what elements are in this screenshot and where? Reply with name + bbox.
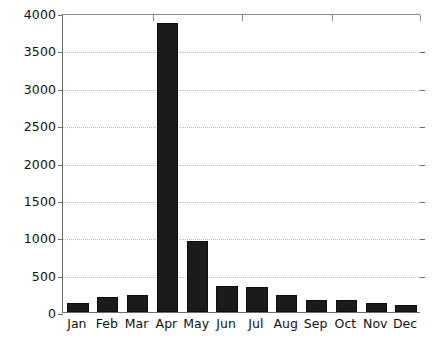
x-axis-tick-label: Mar	[125, 316, 149, 331]
y-tick-mark-right	[420, 239, 425, 240]
y-axis-tick-label: 1000	[0, 231, 56, 246]
x-axis-tick-label: Feb	[96, 316, 118, 331]
y-axis-tick-label: 500	[0, 268, 56, 283]
bar-dec	[395, 305, 416, 312]
y-tick-mark-right	[420, 277, 425, 278]
x-axis-tick-label: Jun	[216, 316, 236, 331]
bar-oct	[336, 300, 357, 312]
x-axis-tick-label: Sep	[304, 316, 328, 331]
x-axis-tick-label: Oct	[335, 316, 357, 331]
x-axis-tick-label: Jul	[248, 316, 263, 331]
x-axis-tick-label: Dec	[393, 316, 417, 331]
bar-sep	[306, 300, 327, 312]
y-tick-mark-right	[420, 165, 425, 166]
y-axis-tick-label: 2000	[0, 156, 56, 171]
plot-area	[62, 14, 420, 313]
x-axis-tick-label: Aug	[274, 316, 298, 331]
x-axis-tick-label: Nov	[363, 316, 387, 331]
y-tick-mark-right	[420, 202, 425, 203]
bar-jan	[67, 303, 88, 312]
bar-jul	[246, 287, 267, 312]
y-tick-mark-right	[420, 90, 425, 91]
bar-apr	[157, 23, 178, 312]
bar-feb	[97, 297, 118, 312]
bar-series	[63, 15, 420, 312]
bar-jun	[216, 286, 237, 312]
y-axis-labels: 05001000150020002500300035004000	[0, 14, 56, 313]
y-axis-tick-label: 1500	[0, 193, 56, 208]
y-tick-mark-right	[420, 52, 425, 53]
x-axis-tick-label: Apr	[156, 316, 178, 331]
x-axis-tick-label: Jan	[67, 316, 86, 331]
x-top-tick-mark	[420, 15, 421, 21]
bar-mar	[127, 295, 148, 312]
x-axis-tick-label: May	[183, 316, 209, 331]
y-axis-tick-label: 0	[0, 306, 56, 321]
y-axis-tick-label: 2500	[0, 119, 56, 134]
bar-chart: 05001000150020002500300035004000 JanFebM…	[0, 0, 432, 350]
bar-aug	[276, 295, 297, 312]
y-tick-mark-right	[420, 127, 425, 128]
x-axis-labels: JanFebMarAprMayJunJulAugSepOctNovDec	[62, 316, 420, 340]
y-axis-tick-label: 3000	[0, 81, 56, 96]
y-tick-mark	[58, 314, 63, 315]
bar-may	[187, 241, 208, 312]
y-axis-tick-label: 3500	[0, 44, 56, 59]
bar-nov	[366, 303, 387, 312]
y-axis-tick-label: 4000	[0, 7, 56, 22]
